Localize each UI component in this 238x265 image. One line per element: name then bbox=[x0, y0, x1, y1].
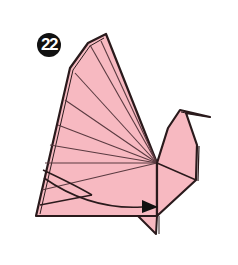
neck-head bbox=[157, 110, 210, 216]
turkey-figure bbox=[0, 0, 238, 265]
step-number-badge: 22 bbox=[37, 33, 61, 57]
origami-diagram: 22 bbox=[0, 0, 238, 265]
lower-flap bbox=[138, 216, 159, 234]
tail-fan bbox=[36, 34, 157, 216]
